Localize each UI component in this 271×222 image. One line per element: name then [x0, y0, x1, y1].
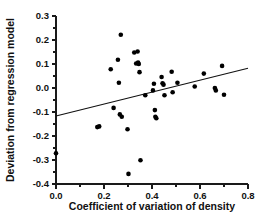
data-point [152, 81, 157, 86]
data-point [111, 106, 116, 111]
data-point [153, 108, 158, 113]
data-point [54, 151, 59, 156]
data-point [119, 115, 124, 120]
data-point [222, 92, 227, 97]
scatter-plot-figure: -0.4-0.3-0.2-0.10.00.10.20.30.00.20.40.6… [0, 0, 271, 222]
y-tick-label: -0.1 [33, 106, 50, 117]
y-tick-label: -0.2 [33, 130, 49, 141]
y-tick-label: 0.1 [36, 58, 50, 69]
y-tick-label: 0.3 [36, 10, 49, 21]
plot-canvas: -0.4-0.3-0.2-0.10.00.10.20.30.00.20.40.6… [0, 0, 271, 222]
x-tick-label: 0.8 [241, 190, 254, 201]
data-point [214, 88, 219, 93]
y-tick-label: 0.2 [36, 34, 49, 45]
data-point [97, 124, 102, 129]
data-point [135, 49, 140, 54]
data-point [125, 127, 130, 132]
data-point [116, 57, 121, 62]
x-tick-label: 0.6 [193, 190, 206, 201]
data-point [119, 32, 124, 37]
x-tick-label: 0.4 [145, 190, 159, 201]
data-point [108, 67, 113, 72]
y-tick-label: -0.3 [33, 154, 49, 165]
data-point [170, 90, 175, 95]
y-tick-label: -0.4 [33, 178, 50, 189]
x-tick-label: 0.2 [97, 190, 110, 201]
data-point [143, 93, 148, 98]
data-point [159, 75, 164, 80]
data-point [202, 71, 207, 76]
y-tick-label: 0.0 [36, 82, 49, 93]
data-point [151, 88, 156, 93]
data-point [161, 82, 166, 87]
data-point [154, 116, 159, 121]
y-axis-title: Deviation from regression model [4, 18, 16, 182]
data-point [175, 80, 180, 85]
x-axis-title: Coefficient of variation of density [69, 200, 235, 212]
x-tick-label: 0.0 [49, 190, 62, 201]
data-point [137, 70, 142, 75]
data-point [162, 93, 167, 98]
data-point [192, 84, 197, 89]
data-point [126, 172, 131, 177]
data-point [117, 80, 122, 85]
data-point [169, 69, 174, 74]
data-point [137, 62, 142, 67]
data-point [220, 64, 225, 69]
data-point [138, 158, 143, 163]
